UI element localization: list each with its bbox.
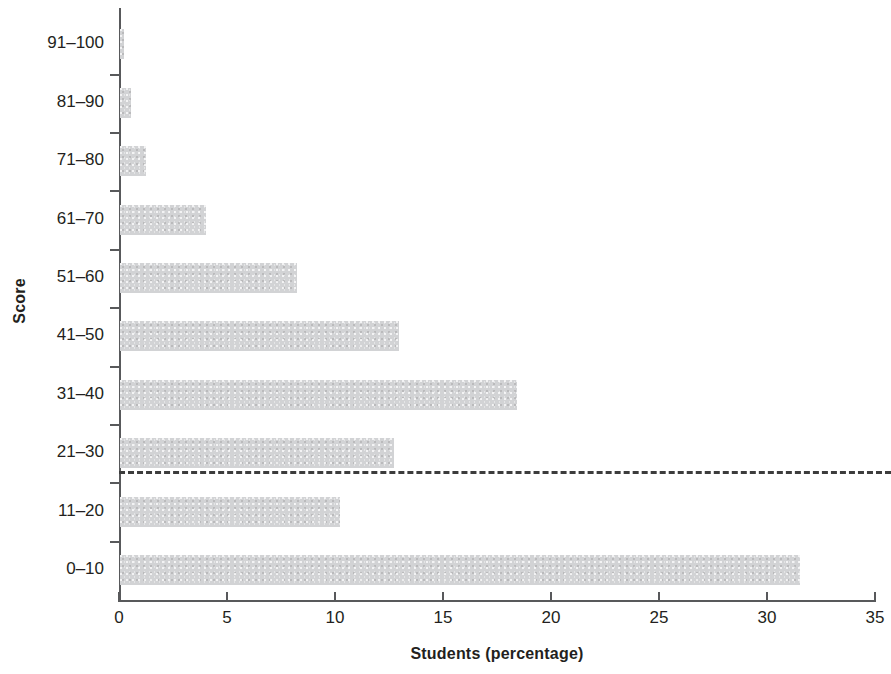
x-axis-tick-label: 20: [521, 608, 581, 628]
pass-threshold-line: [119, 471, 891, 474]
y-axis-tick: [110, 249, 119, 251]
x-axis-tick-label: 5: [197, 608, 257, 628]
x-axis-tick-label: 0: [89, 608, 149, 628]
y-axis-tick-label: 91–100: [0, 33, 104, 53]
y-axis-tick-label: 21–30: [0, 442, 104, 462]
x-axis-line: [119, 600, 876, 602]
x-axis-tick: [766, 592, 768, 602]
bar: [120, 555, 800, 585]
x-axis-tick: [118, 592, 120, 602]
bar: [120, 263, 297, 293]
y-axis-tick-label: 11–20: [0, 501, 104, 521]
x-axis-tick-label: 30: [737, 608, 797, 628]
y-axis-tick-label: 81–90: [0, 92, 104, 112]
bar: [120, 438, 394, 468]
bar: [120, 29, 124, 59]
y-axis-tick-label: 71–80: [0, 150, 104, 170]
y-axis-tick: [110, 74, 119, 76]
y-axis-tick-label: 31–40: [0, 384, 104, 404]
y-axis-tick: [110, 190, 119, 192]
bar: [120, 146, 146, 176]
x-axis-tick-label: 10: [305, 608, 365, 628]
x-axis-tick-label: 15: [413, 608, 473, 628]
x-axis-tick: [334, 592, 336, 602]
y-axis-tick: [110, 424, 119, 426]
y-axis-tick-label: 0–10: [0, 559, 104, 579]
x-axis-tick: [226, 592, 228, 602]
bar: [120, 88, 131, 118]
y-axis-tick: [110, 541, 119, 543]
x-axis-tick: [874, 592, 876, 602]
bar-chart: Score Students (percentage) 051015202530…: [0, 0, 891, 674]
x-axis-tick-label: 25: [629, 608, 689, 628]
x-axis-tick: [550, 592, 552, 602]
bar: [120, 205, 206, 235]
x-axis-title: Students (percentage): [119, 645, 875, 663]
y-axis-tick: [110, 307, 119, 309]
x-axis-tick: [442, 592, 444, 602]
y-axis-tick: [110, 366, 119, 368]
y-axis-tick-label: 61–70: [0, 209, 104, 229]
y-axis-tick-label: 41–50: [0, 325, 104, 345]
x-axis-tick-label: 35: [845, 608, 891, 628]
bar: [120, 321, 399, 351]
bar: [120, 380, 517, 410]
x-axis-tick: [658, 592, 660, 602]
y-axis-tick-label: 51–60: [0, 267, 104, 287]
bar: [120, 497, 340, 527]
y-axis-tick: [110, 132, 119, 134]
y-axis-tick: [110, 482, 119, 484]
